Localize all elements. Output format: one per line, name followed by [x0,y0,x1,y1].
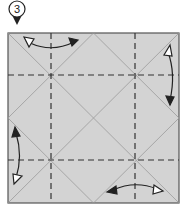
origami-diagram: 3 [0,0,187,206]
paper-square [8,33,179,203]
step-number: 3 [14,3,20,15]
step-marker: 3 [9,1,25,25]
